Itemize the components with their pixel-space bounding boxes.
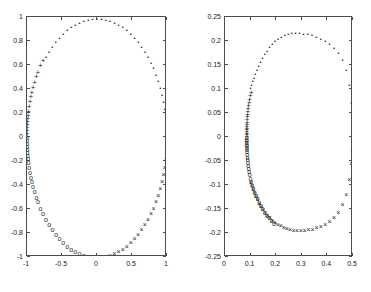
data-point-ex: × bbox=[255, 196, 259, 203]
x-tick-top bbox=[224, 17, 225, 20]
data-point-dot: . bbox=[257, 59, 260, 68]
y-tick-right bbox=[349, 232, 352, 233]
x-tick-top bbox=[301, 17, 302, 20]
x-tick-label: 0 bbox=[94, 260, 98, 267]
data-point-dot: . bbox=[126, 24, 129, 33]
y-tick-label: 1 bbox=[0, 13, 23, 20]
x-tick-top bbox=[26, 17, 27, 20]
data-point-circle: o bbox=[28, 168, 32, 175]
y-tick bbox=[27, 88, 30, 89]
data-point-ex: × bbox=[154, 198, 158, 205]
data-point-circle: o bbox=[65, 242, 69, 249]
x-tick bbox=[301, 253, 302, 256]
x-tick-top bbox=[166, 17, 167, 20]
data-point-ex: × bbox=[306, 226, 310, 233]
data-point-dot: . bbox=[155, 68, 158, 77]
x-tick-top bbox=[326, 17, 327, 20]
data-point-ex: × bbox=[273, 218, 277, 225]
data-point-circle: o bbox=[245, 135, 249, 142]
data-point-plus: + bbox=[245, 113, 250, 121]
x-tick bbox=[326, 253, 327, 256]
data-point-ex: × bbox=[265, 211, 269, 218]
data-point-dot: . bbox=[157, 75, 160, 84]
data-point-plus: + bbox=[36, 69, 41, 77]
y-tick-label: -0.15 bbox=[198, 205, 221, 212]
data-point-dot: . bbox=[328, 38, 331, 47]
data-point-plus: + bbox=[27, 124, 30, 132]
data-point-ex: × bbox=[254, 192, 258, 199]
x-tick-top bbox=[131, 17, 132, 20]
y-tick bbox=[225, 16, 228, 17]
data-point-plus: + bbox=[27, 112, 30, 120]
data-point-circle: o bbox=[253, 188, 257, 195]
data-point-plus: + bbox=[247, 99, 252, 107]
data-point-dot: . bbox=[58, 31, 61, 40]
data-point-circle: o bbox=[44, 216, 48, 223]
data-point-circle: o bbox=[249, 178, 253, 185]
data-point-plus: + bbox=[29, 93, 34, 101]
y-tick-right bbox=[163, 112, 166, 113]
data-point-dot: . bbox=[87, 17, 90, 22]
data-point-circle: o bbox=[36, 198, 40, 205]
y-tick-label: -0.25 bbox=[198, 253, 221, 260]
data-point-ex: × bbox=[323, 220, 327, 227]
data-point-plus: + bbox=[245, 111, 250, 119]
data-point-dot: . bbox=[256, 63, 259, 72]
data-point-ex: × bbox=[347, 176, 351, 183]
data-point-circle: o bbox=[269, 217, 273, 224]
data-point-dot: . bbox=[55, 35, 58, 44]
data-point-ex: × bbox=[163, 163, 165, 170]
data-point-ex: × bbox=[251, 185, 255, 192]
y-tick-label: -0.05 bbox=[198, 157, 221, 164]
x-tick-label: 0.1 bbox=[245, 260, 255, 267]
data-point-ex: × bbox=[132, 235, 136, 242]
data-point-circle: o bbox=[245, 145, 249, 152]
data-point-circle: o bbox=[47, 221, 51, 228]
data-point-dot: . bbox=[117, 18, 120, 27]
data-point-dot: . bbox=[345, 64, 348, 73]
data-point-circle: o bbox=[91, 253, 95, 255]
data-point-circle: o bbox=[245, 137, 249, 144]
data-point-plus: + bbox=[245, 123, 250, 131]
data-point-circle: o bbox=[245, 150, 249, 157]
data-point-ex: × bbox=[108, 251, 112, 255]
data-point-dot: . bbox=[133, 31, 136, 40]
data-point-plus: + bbox=[249, 89, 254, 97]
right-plot-axes: .....................................+++… bbox=[224, 16, 352, 256]
data-point-circle: o bbox=[50, 226, 54, 233]
data-point-dot: . bbox=[251, 75, 254, 84]
data-point-dot: . bbox=[91, 17, 94, 22]
y-tick bbox=[225, 232, 228, 233]
data-point-circle: o bbox=[257, 198, 261, 205]
x-tick-top bbox=[352, 17, 353, 20]
y-tick-right bbox=[349, 208, 352, 209]
data-point-ex: × bbox=[249, 178, 253, 185]
data-point-dot: . bbox=[277, 32, 280, 41]
y-tick-label: -0.6 bbox=[0, 205, 23, 212]
data-point-dot: . bbox=[83, 17, 86, 24]
y-tick-right bbox=[163, 88, 166, 89]
data-point-dot: . bbox=[350, 97, 351, 106]
data-point-plus: + bbox=[38, 62, 43, 70]
data-point-circle: o bbox=[61, 239, 65, 246]
data-point-circle: o bbox=[272, 219, 276, 226]
data-point-plus: + bbox=[244, 130, 249, 138]
y-tick-right bbox=[163, 16, 166, 17]
data-point-circle: o bbox=[69, 245, 73, 252]
y-tick-label: 0.25 bbox=[198, 13, 221, 20]
data-point-dot: . bbox=[261, 51, 264, 60]
data-point-circle: o bbox=[248, 174, 252, 181]
data-point-dot: . bbox=[337, 47, 340, 56]
y-tick bbox=[27, 112, 30, 113]
data-point-ex: × bbox=[332, 213, 336, 220]
y-tick-right bbox=[163, 208, 166, 209]
data-point-circle: o bbox=[27, 134, 29, 141]
left-plot-axes: .......................................+… bbox=[26, 16, 166, 256]
y-tick bbox=[27, 40, 30, 41]
data-point-plus: + bbox=[27, 115, 30, 123]
data-point-circle: o bbox=[245, 153, 249, 160]
y-tick bbox=[27, 256, 30, 257]
data-point-circle: o bbox=[250, 181, 254, 188]
data-point-ex: × bbox=[261, 205, 265, 212]
y-tick bbox=[225, 160, 228, 161]
